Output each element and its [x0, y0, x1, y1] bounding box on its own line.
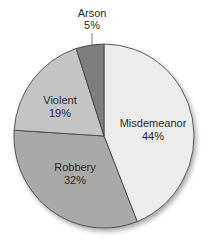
- label-arson-pct: 5%: [84, 19, 100, 31]
- label-arson-name: Arson: [78, 7, 107, 19]
- label-violent-name: Violent: [43, 94, 76, 106]
- label-robbery-pct: 32%: [64, 174, 86, 186]
- label-robbery-name: Robbery: [54, 161, 96, 173]
- label-misdemeanor-name: Misdemeanor: [120, 117, 187, 129]
- label-misdemeanor-pct: 44%: [142, 130, 164, 142]
- label-violent-pct: 19%: [49, 107, 71, 119]
- pie-chart: Arson 5% Violent 19% Misdemeanor 44% Rob…: [0, 0, 205, 246]
